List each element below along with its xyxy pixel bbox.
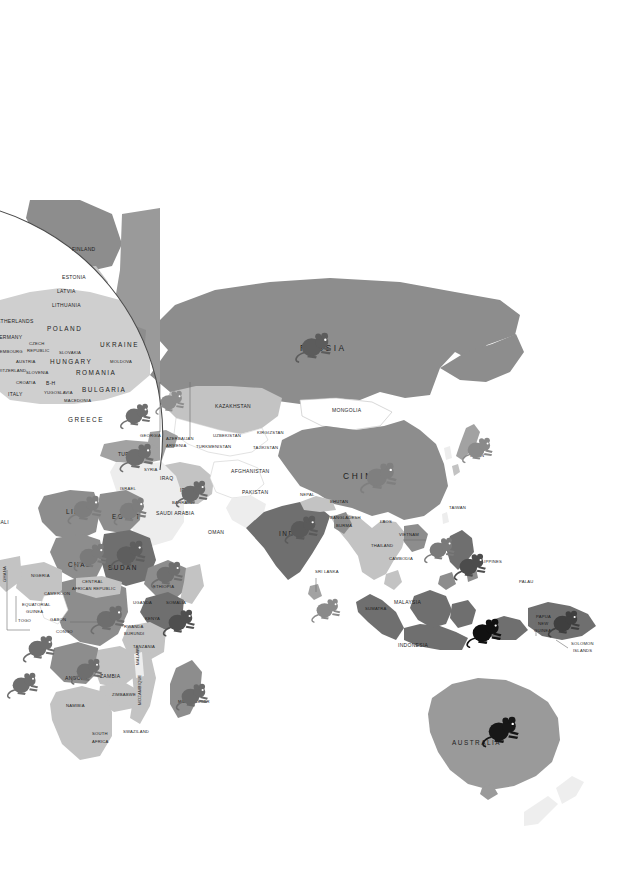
- rodent-part: [97, 544, 103, 550]
- country-label: MOLDOVA: [110, 359, 132, 364]
- rodent-part: [109, 606, 115, 612]
- country-label: ETHIOPIA: [153, 584, 174, 589]
- country-label: LAOS: [380, 519, 392, 524]
- rodent-part: [147, 449, 149, 451]
- country-label: ITALY: [8, 391, 23, 397]
- rodent-part: [202, 689, 204, 691]
- country-label: ISRAEL: [120, 486, 137, 491]
- country-label: GEORGIA: [140, 433, 161, 438]
- country-label: ISLANDS: [573, 648, 592, 653]
- rodent-part: [32, 678, 34, 680]
- country-label: AFGHANISTAN: [231, 468, 270, 474]
- rodent-part: [139, 546, 141, 548]
- rodent-part: [574, 616, 576, 618]
- country-label: NEPAL: [300, 492, 315, 497]
- rodent-part: [486, 619, 492, 625]
- country-label: UGANDA: [133, 600, 152, 605]
- country-label: NIGERIA: [31, 573, 50, 578]
- country-label: ZIMBABWE: [112, 692, 136, 697]
- rodent-part: [189, 615, 191, 617]
- rodent-part: [115, 606, 121, 612]
- country-label: MONGOLIA: [332, 407, 362, 413]
- rodent-part: [176, 391, 182, 397]
- country-label: VIETNAM: [399, 532, 419, 537]
- country-label: SWITZERLAND: [0, 368, 26, 373]
- rodent-part: [92, 544, 98, 550]
- rodent-part: [194, 684, 199, 689]
- rodent-part: [321, 333, 328, 340]
- rodent-part: [137, 498, 143, 504]
- rodent-part: [145, 409, 147, 411]
- rodent-part: [138, 444, 144, 450]
- country-label: AUSTRALIA: [452, 739, 501, 746]
- rodent-part: [480, 559, 482, 561]
- country-label: KENYA: [145, 616, 160, 621]
- rodent-part: [495, 624, 497, 626]
- country-label: SLOVENIA: [26, 370, 49, 375]
- rodent-part: [446, 538, 452, 544]
- country-label: GREECE: [68, 416, 104, 423]
- rodent-part: [202, 486, 204, 488]
- country-label: CAMBODIA: [389, 556, 413, 561]
- country-label: CROATIA: [16, 380, 36, 385]
- country-label: TAJIKISTAN: [253, 445, 278, 450]
- country-label: KAZAKHSTAN: [215, 403, 251, 409]
- country-label: GHANA: [2, 566, 7, 582]
- country-label: GERMANY: [0, 334, 23, 340]
- rodent-part: [327, 599, 332, 604]
- country-label: TOGO: [18, 618, 32, 623]
- country-label: BANGLADESH: [330, 515, 361, 520]
- country-label: SOMALIA: [166, 600, 186, 605]
- rodent-part: [324, 339, 326, 341]
- rodent-part: [137, 404, 142, 409]
- rodent-part: [132, 498, 138, 504]
- rodent-part: [96, 664, 98, 666]
- country-label: SOUTH: [92, 731, 108, 736]
- rodent-part: [441, 538, 446, 543]
- rodent-part: [309, 516, 315, 522]
- rodent-part: [502, 718, 508, 724]
- rodent-part: [142, 404, 148, 410]
- country-label: FINLAND: [72, 246, 96, 252]
- rodent-part: [24, 673, 29, 678]
- rodent-part: [509, 717, 516, 724]
- rodent-part: [92, 496, 98, 502]
- rodent-part: [46, 636, 52, 642]
- country-label: SWAZILAND: [123, 729, 149, 734]
- rodent-part: [140, 503, 142, 505]
- country-label: MALI: [0, 519, 9, 525]
- country-label: NAMIBIA: [66, 703, 85, 708]
- rodent-part: [49, 641, 51, 643]
- country-label: INDONESIA: [398, 642, 429, 648]
- country-label: PAKISTAN: [242, 489, 268, 495]
- rodent-part: [571, 611, 577, 617]
- country-label: BULGARIA: [82, 386, 126, 393]
- country-label: SOLOMON: [571, 641, 594, 646]
- rodent-part: [181, 610, 186, 615]
- rodent-part: [118, 611, 120, 613]
- country-label: IRAQ: [160, 475, 173, 481]
- country-label: PAPUA: [536, 614, 551, 619]
- country-label: GUINEA: [26, 609, 43, 614]
- rodent-part: [390, 469, 392, 471]
- country-label: UZBEKISTAN: [213, 433, 241, 438]
- country-label: UKRAINE: [100, 341, 139, 348]
- rodent-part: [179, 395, 181, 397]
- world-map: FINLANDESTONIALATVIALITHUANIANETHERLANDS…: [0, 0, 638, 881]
- rodent-part: [380, 464, 386, 470]
- country-label: AUSTRIA: [16, 359, 36, 364]
- country-label: SUMATRA: [365, 606, 387, 611]
- country-label: RWANDA: [124, 624, 144, 629]
- country-label: TURKMENISTAN: [196, 444, 231, 449]
- country-label: BHUTAN: [330, 499, 348, 504]
- rodent-part: [303, 516, 309, 522]
- country-label: MALAWI: [135, 647, 140, 665]
- rodent-part: [387, 463, 394, 470]
- rodent-part: [472, 554, 477, 559]
- country-label: SLOVAKIA: [59, 350, 81, 355]
- country-label: EQUATORIAL: [22, 602, 51, 607]
- rodent-part: [88, 659, 93, 664]
- country-label: LUXEMBOURG: [0, 349, 23, 354]
- country-label: POLAND: [47, 325, 82, 332]
- rodent-part: [199, 481, 205, 487]
